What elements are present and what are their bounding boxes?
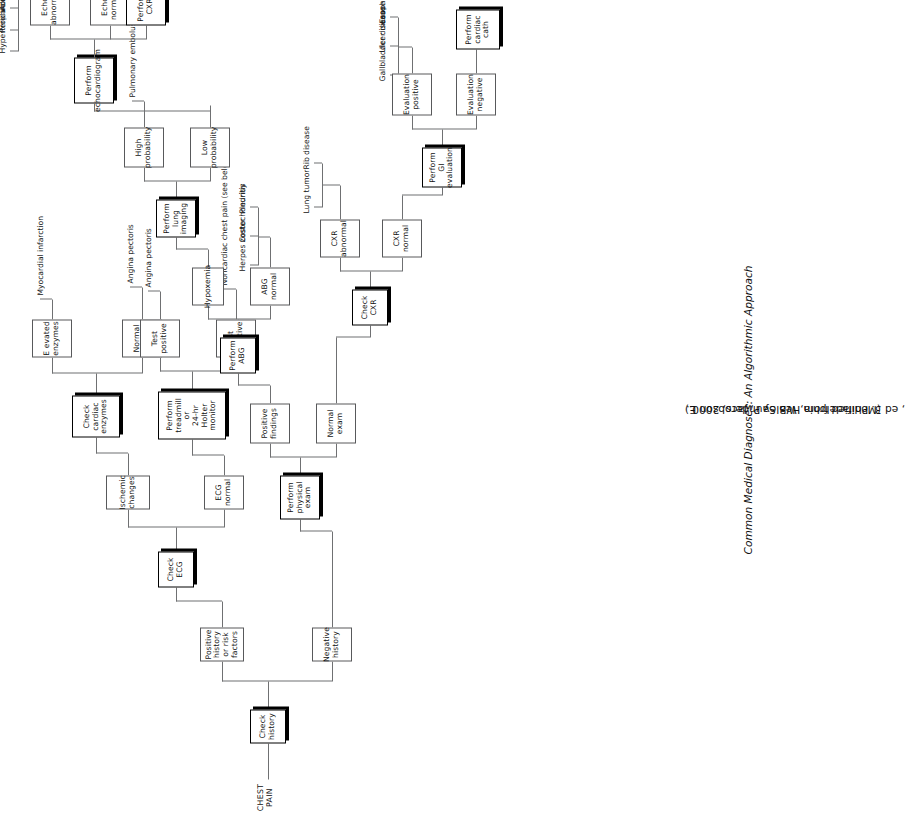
decision-ecg-normal[interactable]: ECG normal [204,475,244,509]
terminal-pulmonary-embolus: Pulmonary embolus [128,22,137,97]
decision-normal-exam[interactable]: Normal exam [316,403,356,443]
action-perform-abg[interactable]: Perform ABG [220,337,256,373]
terminal-angina-pectoris-2: Angina pectoris [144,228,153,287]
connector [250,206,258,207]
connector [268,681,269,709]
connector [176,600,222,601]
connector [270,443,271,457]
action-check-ecg[interactable]: Check ECG [158,551,194,587]
decision-echo-normal[interactable]: Echo normal [90,0,130,25]
decision-elevated-enzymes[interactable]: E evated enzymes [32,319,72,357]
connector [236,289,237,319]
connector [192,371,193,391]
connector [442,187,443,195]
decision-abg-normal[interactable]: ABG normal [250,267,290,305]
connector [176,237,177,249]
connector [270,237,271,267]
decision-echo-abnormal[interactable]: Echo abnormal [30,0,70,25]
connector [336,336,370,337]
connector [300,457,301,475]
connector [340,185,341,219]
connector [412,47,413,73]
connector [390,16,398,17]
connector [128,453,129,475]
decision-evaluation-negative[interactable]: Evaluation negative [456,73,496,115]
connector [250,264,258,265]
connector [270,305,271,319]
connector [224,455,225,475]
decision-positive-findings[interactable]: Positive findings [250,403,290,443]
connector [238,384,270,385]
decision-positive-history[interactable]: Positive history or risk factors [200,627,244,661]
action-perform-physical-exam[interactable]: Perform physical exam [280,475,320,519]
action-perform-echocardiogram[interactable]: Perform echocardiogram [74,57,114,103]
action-perform-cardiac-cath[interactable]: Perform cardiac cath [456,9,500,49]
decision-high-probability[interactable]: High probability [124,127,164,167]
connector [314,162,322,163]
connector [270,456,336,457]
connector [222,680,268,681]
connector [268,743,269,779]
action-check-cxr[interactable]: Check CXR [352,289,388,325]
connector [222,601,223,627]
caption-suffix: , ed 3. Philadelphia, WB Saunders, 2000.… [616,404,905,416]
connector [476,115,477,129]
connector [224,509,225,527]
connector [402,195,403,219]
connector [370,271,371,289]
connector [370,325,371,337]
terminal-rib-disease: Rib disease [302,126,311,169]
action-perform-treadmill[interactable]: Perform treadmill or 24-hr Holter monito… [158,391,226,439]
connector [192,454,224,455]
connector [192,439,193,455]
connector [144,167,145,181]
decision-hypoxemia[interactable]: Hypoxemia [192,267,224,305]
connector [52,357,53,373]
decision-low-probability[interactable]: Low probability [190,127,230,167]
decision-negative-history[interactable]: Negative history [312,627,352,661]
terminal-myocardial-infarction: Myocardial infarction [36,215,45,295]
connector [130,286,142,287]
connector [238,373,239,385]
entry-chest-pain: CHEST PAIN [256,779,274,815]
action-perform-gi-evaluation[interactable]: Perform GI evaluation [422,147,462,187]
connector [128,509,129,527]
connector [340,257,341,271]
connector [96,437,97,453]
decision-cxr-normal-exam[interactable]: CXR normal [382,219,422,257]
action-perform-cxr[interactable]: Perform CXR [126,0,166,25]
connector [144,180,210,181]
connector [224,288,236,289]
action-perform-lung-imaging[interactable]: Perform lung imaging [156,199,196,237]
terminal-noncardiac-chest-pain: Noncardiac chest pain (see below) [220,154,229,285]
connector [176,181,177,199]
connector [442,129,443,147]
connector [340,270,402,271]
connector [476,49,477,73]
connector [132,100,144,101]
decision-cxr-abnormal-exam[interactable]: CXR abnormal [320,219,360,257]
connector [322,163,323,207]
connector [222,661,223,681]
connector [402,194,442,195]
connector [258,236,270,237]
decision-evaluation-positive[interactable]: Evaluation positive [392,73,432,115]
action-check-history[interactable]: Check history [250,709,286,743]
connector [128,526,224,527]
connector [398,46,412,47]
connector [314,206,322,207]
connector [176,587,177,601]
connector [40,298,52,299]
connector [52,372,142,373]
connector [176,527,177,551]
decision-test-positive[interactable]: Test positive [140,319,180,357]
terminal-angina-pectoris-1: Angina pectoris [126,224,135,283]
connector [332,661,333,681]
connector [322,184,340,185]
decision-ischemic-changes[interactable]: Ischemic changes [106,475,150,509]
connector [398,17,399,75]
connector [250,235,258,236]
connector [258,207,259,265]
figure-caption: (Modified from Healey P, Jacobson E. Com… [736,0,760,819]
action-check-cardiac-enzymes[interactable]: Check cardiac enzymes [72,395,120,437]
